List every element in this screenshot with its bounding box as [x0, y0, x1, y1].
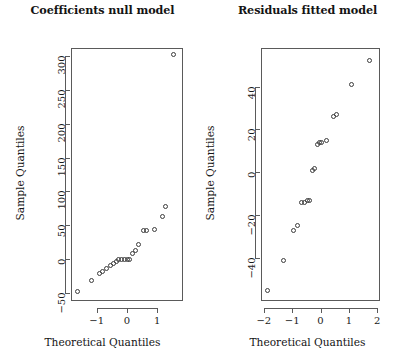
plot-area-left	[71, 48, 183, 301]
data-point	[133, 248, 138, 253]
y-tick-label: −40	[246, 258, 257, 279]
qq-plot-figure: Coefficients null model −500501001502002…	[0, 0, 410, 360]
x-tick-label: 1	[346, 315, 352, 326]
data-point	[127, 257, 132, 262]
data-point	[307, 198, 312, 203]
plot-area-right	[261, 48, 380, 301]
x-tick-label: 2	[374, 315, 380, 326]
y-axis-title-right: Sample Quantiles	[204, 118, 216, 228]
x-tick-label: 0	[124, 315, 130, 326]
x-tick-label: 1	[154, 315, 160, 326]
data-point	[349, 82, 354, 87]
y-axis-line	[255, 87, 256, 259]
panel-coefficients-null-model: Coefficients null model −500501001502002…	[0, 0, 205, 360]
data-point	[136, 242, 141, 247]
data-point	[312, 166, 317, 171]
data-point	[89, 278, 94, 283]
panel-title-right: Residuals fitted model	[205, 3, 410, 17]
data-point	[324, 138, 329, 143]
x-tick-label: 0	[317, 315, 323, 326]
x-axis-line	[97, 308, 158, 309]
x-tick	[377, 308, 378, 313]
data-point	[265, 288, 270, 293]
y-tick-label: −50	[56, 292, 67, 313]
x-axis-title-right: Theoretical Quantiles	[205, 336, 410, 348]
y-axis-title-left: Sample Quantiles	[14, 118, 26, 228]
x-axis-line	[264, 308, 377, 309]
panel-residuals-fitted-model: Residuals fitted model −40−2002040−2−101…	[205, 0, 410, 360]
x-tick-label: −2	[256, 315, 271, 326]
data-point	[144, 228, 149, 233]
x-tick	[157, 308, 158, 313]
x-tick-label: −1	[89, 315, 104, 326]
panel-title-left: Coefficients null model	[0, 3, 205, 17]
x-tick-label: −1	[285, 315, 300, 326]
data-point	[75, 289, 80, 294]
x-axis-title-left: Theoretical Quantiles	[0, 336, 205, 348]
y-axis-line	[65, 56, 66, 293]
data-point	[291, 228, 296, 233]
